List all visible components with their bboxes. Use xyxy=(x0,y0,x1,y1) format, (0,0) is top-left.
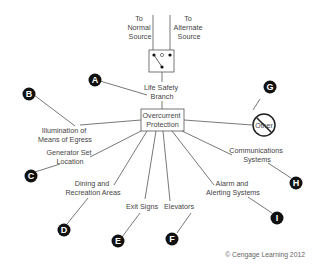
life-safety-branch-label: Life Safety Branch xyxy=(144,83,180,101)
leader-d xyxy=(67,198,88,224)
normal-source-label: To Normal Source xyxy=(127,14,152,41)
label-b: Illumination of Means of Egress xyxy=(38,126,92,144)
badge-f: F xyxy=(166,233,179,246)
svg-text:B: B xyxy=(26,89,33,99)
line-g xyxy=(184,120,252,125)
transfer-switch xyxy=(149,50,174,72)
label-d: Dining and Recreation Areas xyxy=(65,179,121,197)
leader-c xyxy=(35,164,60,172)
prohibited-other-icon: Other xyxy=(253,114,275,136)
label-c: Generator Set Location xyxy=(46,148,93,166)
label-h: Communications Systems xyxy=(229,146,285,164)
label-i: Alarm and Alerting Systems xyxy=(206,179,260,197)
line-i xyxy=(172,131,214,185)
badge-b: B xyxy=(23,88,36,101)
life-safety-branch-diagram: To Normal Source To Alternate Source Lif… xyxy=(0,0,318,270)
svg-text:H: H xyxy=(293,178,300,188)
leader-h xyxy=(268,163,291,178)
svg-text:A: A xyxy=(92,75,99,85)
badge-i: I xyxy=(271,212,284,225)
badge-g: G xyxy=(264,81,277,94)
leader-e xyxy=(122,213,140,237)
badge-h: H xyxy=(290,177,303,190)
badge-a: A xyxy=(89,74,102,87)
svg-text:E: E xyxy=(115,236,121,246)
leader-f xyxy=(177,213,191,233)
line-b xyxy=(80,120,141,125)
badge-c: C xyxy=(25,170,38,183)
badge-d: D xyxy=(58,224,71,237)
copyright-text: © Cengage Learning 2012 xyxy=(225,251,305,259)
label-e: Exit Signs xyxy=(126,202,158,211)
line-h xyxy=(182,131,232,155)
svg-text:D: D xyxy=(61,225,68,235)
line-d xyxy=(114,131,147,185)
svg-text:C: C xyxy=(28,171,35,181)
leader-a xyxy=(100,81,147,95)
leader-b xyxy=(34,95,75,126)
overcurrent-protection-box: Overcurrent Protection xyxy=(141,109,184,131)
svg-text:I: I xyxy=(276,213,279,223)
alternate-source-label: To Alternate Source xyxy=(174,14,205,41)
svg-text:G: G xyxy=(266,82,273,92)
badge-e: E xyxy=(112,235,125,248)
leader-i xyxy=(248,197,272,213)
label-f: Elevators xyxy=(164,202,194,211)
leader-g xyxy=(253,99,260,110)
line-f xyxy=(163,131,170,201)
line-e xyxy=(145,131,156,199)
svg-text:F: F xyxy=(169,234,175,244)
svg-text:Overcurrent Protection: Overcurrent Protection xyxy=(143,111,183,129)
